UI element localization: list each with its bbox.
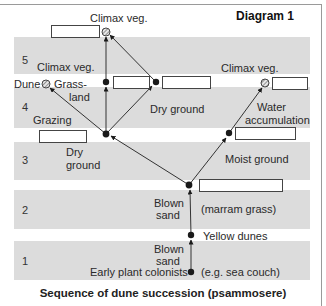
- top-climax-box[interactable]: [51, 25, 100, 38]
- node-dune: [42, 80, 50, 88]
- label-dry-ground-upper: Dry ground: [150, 103, 204, 115]
- label-moist-ground: Moist ground: [225, 153, 289, 165]
- node-dry-ground: [103, 131, 110, 138]
- label-grassland-1: Grass-: [54, 78, 87, 90]
- label-blown-sand-2b: sand: [156, 209, 180, 221]
- label-climax-right: Climax veg.: [221, 62, 278, 74]
- label-dune: Dune: [14, 78, 40, 90]
- node-dry-ground-upper: [153, 79, 159, 85]
- label-yellow-dunes: Yellow dunes: [203, 230, 267, 242]
- label-dry-ground-lower-1: Dry: [66, 146, 83, 158]
- node-climax-right: [261, 79, 269, 87]
- grazing-box[interactable]: [39, 130, 87, 143]
- node-climax-top: [102, 28, 110, 36]
- label-water-2: accumulation: [245, 114, 310, 126]
- node-branch: [186, 182, 193, 189]
- node-yellow-dunes: [188, 232, 194, 238]
- label-sea-couch: (e.g. sea couch): [201, 266, 280, 278]
- node-early-colonists: [188, 269, 194, 275]
- node-grassland: [103, 79, 109, 85]
- branch-box[interactable]: [199, 179, 283, 192]
- grassland-box[interactable]: [113, 76, 150, 89]
- right-climax-box[interactable]: [272, 77, 308, 90]
- dry-ground-box[interactable]: [162, 76, 211, 89]
- label-blown-sand-1a: Blown: [154, 243, 184, 255]
- label-grazing: Grazing: [33, 114, 72, 126]
- label-early-colonists: Early plant colonists: [90, 266, 188, 278]
- label-blown-sand-2a: Blown: [154, 197, 184, 209]
- label-water-1: Water: [257, 101, 286, 113]
- label-marram: (marram grass): [201, 203, 276, 215]
- label-climax-left: Climax veg.: [37, 61, 94, 73]
- label-climax-top: Climax veg.: [90, 12, 147, 24]
- node-water-accumulation: [226, 130, 232, 136]
- label-grassland-2: land: [69, 91, 90, 103]
- diagram-caption: Sequence of dune succession (psammosere): [0, 287, 326, 299]
- water-accumulation-box[interactable]: [235, 127, 296, 140]
- label-dry-ground-lower-2: ground: [66, 159, 100, 171]
